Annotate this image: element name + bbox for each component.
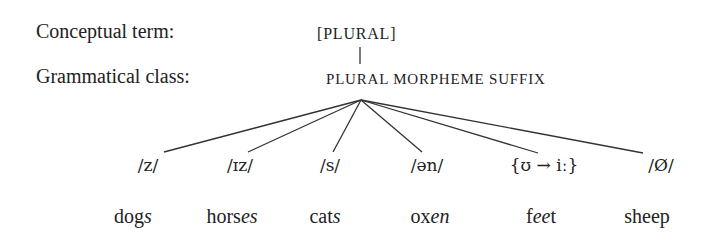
example-horses: horses	[206, 205, 257, 228]
branch-zero	[361, 100, 643, 153]
tree-connectors	[0, 0, 715, 247]
allomorph-iz: /ɪz/	[227, 155, 253, 175]
allomorph-s: /s/	[320, 155, 340, 175]
allomorph-vowel-change: {ʊ → iː}	[510, 155, 578, 175]
example-dogs: dogs	[114, 205, 152, 228]
branch-en	[361, 100, 422, 152]
example-cats: cats	[309, 205, 340, 228]
branch-z	[164, 100, 361, 152]
allomorph-zero: /Ø/	[648, 155, 673, 175]
example-oxen: oxen	[411, 205, 450, 228]
branch-s	[333, 100, 361, 152]
allomorph-z: /z/	[138, 155, 158, 175]
example-sheep: sheep	[624, 205, 670, 228]
allomorph-en: /ən/	[411, 155, 443, 175]
branch-vowel-change	[361, 100, 538, 153]
example-feet: feet	[526, 205, 556, 228]
